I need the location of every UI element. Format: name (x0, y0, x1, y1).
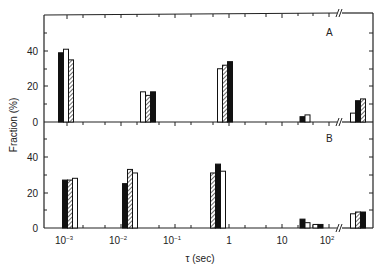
bar-solid (123, 184, 128, 228)
bar-solid (356, 101, 361, 122)
bar-open (313, 224, 318, 228)
bar-open (221, 171, 226, 228)
bar-solid (216, 164, 221, 228)
svg-text:102: 102 (320, 235, 335, 246)
bar-hatched (361, 99, 366, 122)
chart-figure: 40 20 0 40 20 0 Fraction (%) 10−3 10−2 1… (0, 0, 383, 272)
bar-solid (228, 62, 233, 122)
svg-text:20: 20 (27, 188, 39, 199)
bar-open (133, 173, 138, 228)
bar-hatched (69, 60, 74, 122)
panel-b-label: B (326, 133, 333, 144)
panel-a-label: A (326, 27, 333, 38)
bar-open (64, 49, 69, 122)
bar-open (305, 115, 310, 122)
bar-open (141, 92, 146, 122)
bar-solid (300, 117, 305, 122)
svg-text:40: 40 (27, 152, 39, 163)
x-ticks (67, 13, 329, 228)
svg-text:10: 10 (276, 235, 288, 246)
bar-hatched (128, 169, 133, 228)
svg-text:0: 0 (32, 117, 38, 128)
bar-hatched (68, 180, 73, 228)
svg-text:10−3: 10−3 (55, 235, 74, 246)
bars-layer (59, 49, 366, 228)
bar-open (351, 214, 356, 228)
y-tick-labels: 40 20 0 40 20 0 (27, 46, 39, 234)
axis-break-marks (336, 9, 342, 232)
bar-open (305, 223, 310, 228)
bar-solid (63, 180, 68, 228)
bar-solid (318, 224, 323, 228)
x-axis-title: τ (sec) (186, 253, 215, 264)
bar-solid (59, 53, 64, 122)
bar-open (218, 69, 223, 122)
bar-hatched (356, 212, 361, 228)
bar-hatched (223, 65, 228, 122)
svg-text:40: 40 (27, 46, 39, 57)
y-axis-title: Fraction (%) (8, 98, 19, 152)
svg-text:0: 0 (32, 223, 38, 234)
bar-solid (300, 219, 305, 228)
bar-open (351, 113, 356, 122)
svg-text:10−1: 10−1 (163, 235, 182, 246)
plot-frame (44, 13, 373, 228)
bar-hatched (146, 95, 151, 122)
bar-solid (361, 212, 366, 228)
x-tick-labels: 10−3 10−2 10−1 1 10 102 (55, 235, 335, 246)
svg-text:20: 20 (27, 81, 39, 92)
bar-solid (151, 92, 156, 122)
bar-hatched (211, 173, 216, 228)
bar-open (73, 178, 78, 228)
svg-text:10−2: 10−2 (109, 235, 128, 246)
svg-text:1: 1 (226, 235, 232, 246)
